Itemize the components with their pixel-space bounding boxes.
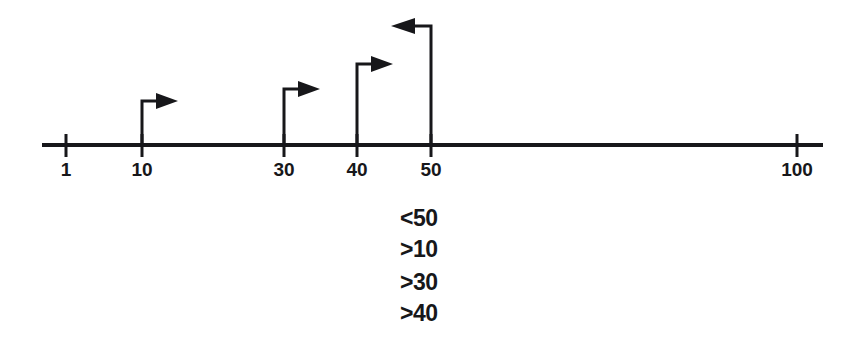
condition-list: <50 >10 >30 >40 bbox=[400, 205, 438, 326]
arrowhead-right-icon bbox=[156, 93, 178, 109]
condition-item-2: >10 bbox=[400, 236, 438, 262]
arrowhead-left-icon bbox=[391, 18, 415, 34]
arrowhead-right-icon bbox=[298, 81, 320, 97]
number-line-diagram: 1 10 30 40 50 100 <50 bbox=[0, 0, 862, 348]
axis-label-10: 10 bbox=[131, 159, 152, 180]
probe-arrow-30 bbox=[284, 81, 320, 145]
axis-label-100: 100 bbox=[781, 159, 813, 180]
probe-arrow-40 bbox=[357, 56, 393, 145]
condition-item-3: >30 bbox=[400, 269, 438, 295]
axis-label-1: 1 bbox=[61, 159, 72, 180]
axis-label-40: 40 bbox=[346, 159, 367, 180]
probe-arrow-40-path bbox=[357, 64, 373, 145]
probe-arrow-50-path bbox=[413, 26, 431, 145]
condition-item-1: <50 bbox=[400, 205, 438, 231]
probe-arrow-50 bbox=[391, 18, 431, 145]
arrowhead-right-icon bbox=[371, 56, 393, 72]
number-line-figure: 1 10 30 40 50 100 <50 bbox=[0, 0, 862, 348]
probe-arrow-30-path bbox=[284, 89, 300, 145]
probe-arrow-10-path bbox=[142, 101, 158, 145]
probe-arrow-10 bbox=[142, 93, 178, 145]
axis-label-50: 50 bbox=[420, 159, 441, 180]
axis-tick-labels: 1 10 30 40 50 100 bbox=[61, 159, 813, 180]
axis-label-30: 30 bbox=[273, 159, 294, 180]
condition-item-4: >40 bbox=[400, 300, 438, 326]
